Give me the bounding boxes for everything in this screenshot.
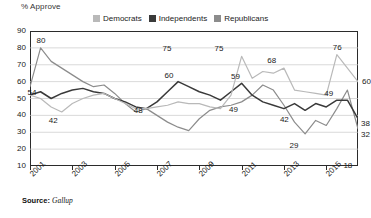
plot-svg bbox=[30, 31, 358, 166]
data-point-label: 38 bbox=[361, 120, 370, 128]
data-point-label: 60 bbox=[165, 72, 174, 80]
legend-swatch-icon bbox=[93, 15, 100, 22]
data-point-label: 42 bbox=[280, 116, 289, 124]
x-axis-tick bbox=[115, 166, 116, 170]
legend-item-independents: Independents bbox=[149, 14, 208, 23]
y-axis-labels: 908070605040302010 bbox=[0, 27, 28, 170]
chart-legend: DemocratsIndependentsRepublicans bbox=[93, 14, 268, 23]
x-axis-tick bbox=[199, 166, 200, 170]
data-point-label: 60 bbox=[362, 78, 371, 86]
x-axis-tick bbox=[157, 166, 158, 170]
legend-item-democrats: Democrats bbox=[93, 14, 142, 23]
x-axis-tick bbox=[326, 166, 327, 170]
data-point-label: 76 bbox=[333, 44, 342, 52]
data-point-label: 75 bbox=[214, 45, 223, 53]
data-point-label: 75 bbox=[163, 45, 172, 53]
x-axis-tick bbox=[72, 166, 73, 170]
legend-swatch-icon bbox=[214, 15, 221, 22]
data-point-label: 59 bbox=[231, 73, 240, 81]
data-point-label: 54 bbox=[28, 89, 37, 97]
data-point-label: 80 bbox=[37, 37, 46, 45]
x-axis-labels: 20012003200520072009201120132015 bbox=[0, 166, 371, 200]
source-name: Gallup bbox=[52, 196, 73, 205]
y-tick-label: 90 bbox=[17, 27, 26, 35]
data-point-label: 49 bbox=[324, 90, 333, 98]
approval-chart: % Approve DemocratsIndependentsRepublica… bbox=[0, 0, 371, 218]
y-tick-label: 30 bbox=[17, 128, 26, 136]
y-tick-label: 50 bbox=[17, 95, 26, 103]
data-point-label: 48 bbox=[134, 107, 143, 115]
x-axis-tick bbox=[242, 166, 243, 170]
x-axis-tick bbox=[284, 166, 285, 170]
source-prefix: Source: bbox=[22, 196, 50, 205]
data-point-label: 68 bbox=[267, 57, 276, 65]
y-tick-label: 40 bbox=[17, 111, 26, 119]
y-axis-title: % Approve bbox=[21, 2, 61, 11]
y-tick-label: 70 bbox=[17, 61, 26, 69]
data-point-label: 32 bbox=[361, 131, 370, 139]
data-point-label: 49 bbox=[229, 106, 238, 114]
series-line-democrats bbox=[30, 55, 358, 112]
y-tick-label: 60 bbox=[17, 78, 26, 86]
series-line-republicans bbox=[30, 48, 358, 134]
legend-label: Republicans bbox=[224, 14, 268, 23]
y-tick-label: 80 bbox=[17, 44, 26, 52]
plot-area: 805442487560755949684229764918603832 bbox=[30, 31, 358, 166]
legend-label: Independents bbox=[159, 14, 208, 23]
y-tick-label: 20 bbox=[17, 145, 26, 153]
legend-label: Democrats bbox=[103, 14, 142, 23]
legend-item-republicans: Republicans bbox=[214, 14, 268, 23]
data-point-label: 42 bbox=[49, 117, 58, 125]
x-axis-tick bbox=[30, 166, 31, 170]
legend-swatch-icon bbox=[149, 15, 156, 22]
source-note: Source: Gallup bbox=[22, 196, 73, 205]
data-point-label: 29 bbox=[290, 142, 299, 150]
